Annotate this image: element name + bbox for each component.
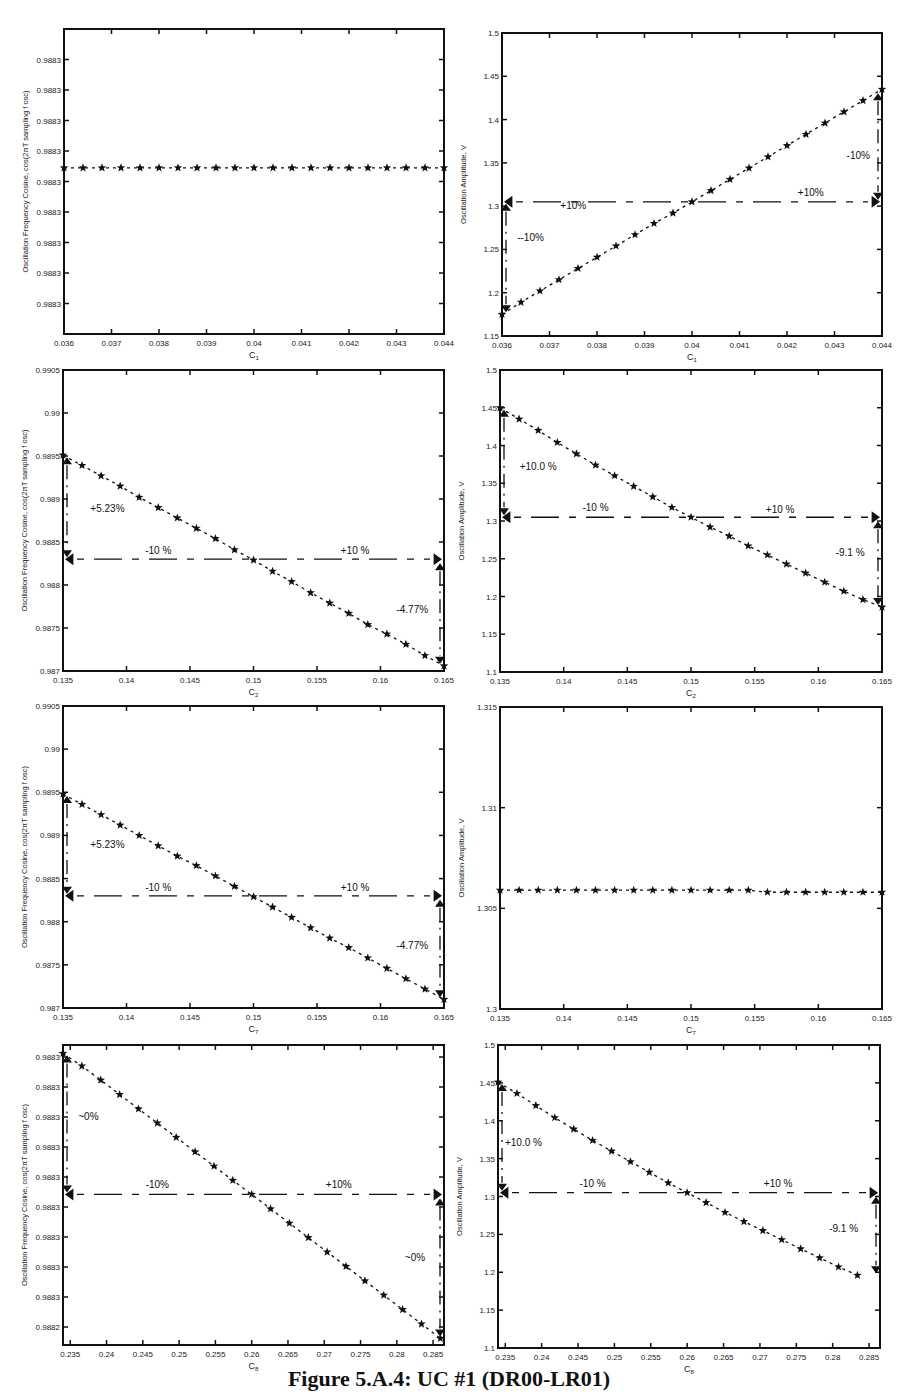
y-tick-label: 0.9883 xyxy=(37,300,62,309)
star-marker-icon xyxy=(725,886,734,894)
star-marker-icon xyxy=(210,1162,219,1170)
star-marker-icon xyxy=(268,903,277,911)
y-tick-label: 0.9905 xyxy=(36,366,61,375)
star-marker-icon xyxy=(782,888,791,896)
star-marker-icon xyxy=(212,163,221,171)
y-axis-label: Oscillation Amplitude, V xyxy=(457,482,466,561)
star-marker-icon xyxy=(288,163,297,171)
y-tick-label: 1.4 xyxy=(484,1117,496,1126)
x-tick-label: 0.25 xyxy=(607,1353,623,1362)
star-marker-icon xyxy=(668,886,677,894)
star-marker-icon xyxy=(610,886,619,894)
star-marker-icon xyxy=(629,886,638,894)
star-marker-icon xyxy=(172,1133,181,1141)
star-marker-icon xyxy=(840,587,849,595)
y-tick-label: 1.5 xyxy=(486,366,498,375)
star-marker-icon xyxy=(668,503,677,511)
star-marker-icon xyxy=(782,560,791,568)
star-marker-icon xyxy=(116,821,125,829)
star-marker-icon xyxy=(417,1320,426,1328)
y-tick-label: 0.9883 xyxy=(37,86,62,95)
x-tick-label: 0.043 xyxy=(824,341,845,350)
y-axis-label: Oscillation Frequency Cosine, cos(2πT sa… xyxy=(21,90,30,273)
y-tick-label: 1.45 xyxy=(483,72,499,81)
x-tick-label: 0.165 xyxy=(872,1014,893,1023)
star-marker-icon xyxy=(78,461,87,469)
y-tick-label: 0.9883 xyxy=(36,1203,61,1212)
percent-annotation: -10 % xyxy=(145,545,171,556)
star-marker-icon xyxy=(383,964,392,972)
star-marker-icon xyxy=(706,523,715,531)
y-axis-label: Oscillation Frequency Cosine, cos(2πT sa… xyxy=(20,429,29,612)
star-marker-icon xyxy=(193,163,202,171)
x-tick-label: 0.145 xyxy=(180,676,201,685)
y-tick-label: 1.4 xyxy=(486,442,498,451)
star-marker-icon xyxy=(230,545,239,553)
x-tick-label: 0.24 xyxy=(99,1350,115,1359)
star-marker-icon xyxy=(796,1244,805,1252)
y-tick-label: 1.45 xyxy=(481,404,497,413)
star-marker-icon xyxy=(344,943,353,951)
x-tick-label: 0.275 xyxy=(351,1350,372,1359)
x-tick-label: 0.25 xyxy=(171,1350,187,1359)
star-marker-icon xyxy=(154,503,163,511)
x-tick-label: 0.26 xyxy=(679,1353,695,1362)
percent-annotation: +10 % xyxy=(764,1178,793,1189)
y-tick-label: 0.9883 xyxy=(37,269,62,278)
y-tick-label: 1.25 xyxy=(481,555,497,564)
y-tick-label: 1.3 xyxy=(488,202,500,211)
x-tick-label: 0.15 xyxy=(246,1013,262,1022)
chart-svg: 0.0360.0370.0380.0390.040.0410.0420.0430… xyxy=(449,0,898,350)
x-tick-label: 0.165 xyxy=(872,677,893,686)
y-tick-label: 1.3 xyxy=(484,1193,496,1202)
y-tick-label: 1.25 xyxy=(483,245,499,254)
star-marker-icon xyxy=(364,620,373,628)
x-tick-label: 0.285 xyxy=(423,1350,444,1359)
y-tick-label: 1.3 xyxy=(486,517,498,526)
star-marker-icon xyxy=(402,640,411,648)
star-marker-icon xyxy=(683,1188,692,1196)
x-tick-label: 0.16 xyxy=(811,677,827,686)
y-tick-label: 0.99 xyxy=(44,745,60,754)
percent-annotation: --10% xyxy=(517,232,544,243)
percent-annotation: -4.77% xyxy=(396,604,428,615)
x-tick-label: 0.265 xyxy=(714,1353,735,1362)
star-marker-icon xyxy=(515,415,524,423)
star-marker-icon xyxy=(591,886,600,894)
percent-annotation: -10% xyxy=(146,1179,169,1190)
x-tick-label: 0.044 xyxy=(872,341,893,350)
star-marker-icon xyxy=(192,861,201,869)
star-marker-icon xyxy=(763,550,772,558)
percent-annotation: -9.1 % xyxy=(836,547,865,558)
x-tick-label: 0.041 xyxy=(291,339,312,348)
y-tick-label: 1.35 xyxy=(479,1155,495,1164)
star-marker-icon xyxy=(801,888,810,896)
chart-svg: 0.1350.140.1450.150.1550.160.1650.9870.9… xyxy=(0,350,449,690)
y-tick-label: 0.9875 xyxy=(36,624,61,633)
star-marker-icon xyxy=(801,569,810,577)
x-tick-label: 0.235 xyxy=(60,1350,81,1359)
y-tick-label: 0.9883 xyxy=(36,1053,61,1062)
y-tick-label: 1.15 xyxy=(481,630,497,639)
x-tick-label: 0.14 xyxy=(119,1013,135,1022)
star-marker-icon xyxy=(325,934,334,942)
y-tick-label: 0.99 xyxy=(44,409,60,418)
x-tick-label: 0.255 xyxy=(641,1353,662,1362)
y-tick-label: 0.9882 xyxy=(36,1323,61,1332)
star-marker-icon xyxy=(649,886,658,894)
star-marker-icon xyxy=(402,974,411,982)
star-marker-icon xyxy=(764,152,773,160)
y-tick-label: 0.9883 xyxy=(36,1233,61,1242)
star-marker-icon xyxy=(702,1198,711,1206)
y-tick-label: 1.315 xyxy=(477,703,498,712)
x-tick-label: 0.26 xyxy=(244,1350,260,1359)
y-tick-label: 1.45 xyxy=(479,1079,495,1088)
star-marker-icon xyxy=(117,163,126,171)
chart-svg: 0.1350.140.1450.150.1550.160.1651.11.151… xyxy=(449,350,898,690)
x-tick-label: 0.036 xyxy=(492,341,513,350)
star-marker-icon xyxy=(626,1157,635,1165)
y-tick-label: 1.2 xyxy=(484,1268,496,1277)
data-series-line xyxy=(498,1082,857,1275)
star-marker-icon xyxy=(266,1204,275,1212)
y-tick-label: 0.9883 xyxy=(36,1143,61,1152)
